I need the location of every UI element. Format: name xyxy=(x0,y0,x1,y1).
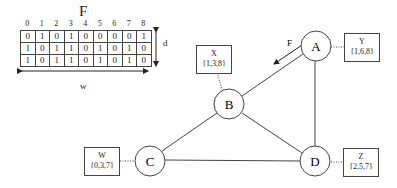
node-a: A xyxy=(301,31,331,61)
edge-b-c xyxy=(162,113,217,151)
edge-b-d xyxy=(242,113,302,153)
set-box-z: Z {2,5,7} xyxy=(343,148,379,177)
set-values: {1,3,8} xyxy=(197,59,231,69)
diagram-canvas: F A B C D xyxy=(0,0,397,188)
set-values: {1,6,8} xyxy=(345,47,379,57)
node-d-label: D xyxy=(310,154,319,169)
node-a-label: A xyxy=(311,39,321,54)
set-name: X xyxy=(197,49,231,59)
connector-x-b xyxy=(218,75,222,90)
set-box-w: W {0,3,7} xyxy=(84,147,120,176)
set-name: Y xyxy=(345,37,379,47)
set-box-x: X {1,3,8} xyxy=(196,45,232,74)
edge-c-d xyxy=(165,160,300,161)
set-name: Z xyxy=(344,152,378,162)
set-box-y: Y {1,6,8} xyxy=(344,33,380,62)
set-values: {0,3,7} xyxy=(85,161,119,171)
node-c: C xyxy=(135,146,165,176)
node-b-label: B xyxy=(225,97,234,112)
set-name: W xyxy=(85,151,119,161)
node-d: D xyxy=(300,146,330,176)
flow-label: F xyxy=(287,38,292,48)
edge-a-b xyxy=(242,54,303,96)
node-c-label: C xyxy=(146,154,155,169)
node-b: B xyxy=(214,89,244,119)
set-values: {2,5,7} xyxy=(344,162,378,172)
